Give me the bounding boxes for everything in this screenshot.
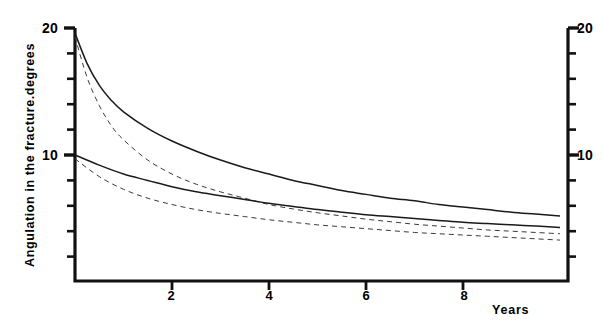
curve-lower-solid <box>75 155 560 227</box>
x-tick-label-8: 8 <box>452 288 476 303</box>
y-left-tick-label-20: 20 <box>42 20 58 36</box>
y-right-tick-label-20: 20 <box>577 20 593 36</box>
x-tick-label-2: 2 <box>159 288 183 303</box>
chart-figure: Angulation in the fracture.degrees 20 10… <box>0 0 603 325</box>
x-tick-label-4: 4 <box>257 288 281 303</box>
y-left-tick-label-10: 10 <box>42 147 58 163</box>
axis-ticks <box>64 28 579 290</box>
data-curves <box>75 33 560 240</box>
y-axis-title: Angulation in the fracture.degrees <box>23 5 37 305</box>
y-right-tick-label-10: 10 <box>577 147 593 163</box>
curve-lower-dashed <box>75 159 560 240</box>
curve-upper-solid <box>75 33 560 216</box>
x-axis-title: Years <box>492 303 529 317</box>
axis-lines <box>75 28 568 281</box>
curve-upper-dashed <box>75 37 560 234</box>
plot-canvas <box>0 0 603 325</box>
x-tick-label-6: 6 <box>354 288 378 303</box>
